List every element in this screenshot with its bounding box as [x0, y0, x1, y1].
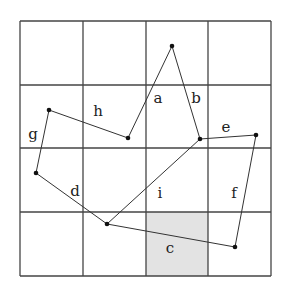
polygon-edge [235, 135, 256, 247]
grid-polygon-diagram: abcdefghi [0, 0, 287, 287]
region-label-f: f [231, 184, 238, 202]
region-label-d: d [70, 182, 80, 200]
region-label-e: e [222, 118, 231, 136]
polygon-edge [49, 110, 128, 138]
polygon-edge [107, 139, 200, 224]
vertex-dot [126, 136, 131, 141]
vertex-dot [34, 171, 39, 176]
polygon-edge [128, 46, 172, 138]
region-label-i: i [158, 184, 163, 202]
vertex-dot [170, 44, 175, 49]
vertex-dot [233, 245, 238, 250]
polygon-edge [36, 110, 49, 173]
region-label-g: g [28, 125, 38, 143]
shaded-cell-c [146, 212, 208, 276]
vertex-dot [47, 108, 52, 113]
grid-lines [20, 21, 271, 276]
region-label-h: h [93, 102, 103, 120]
vertex-dot [105, 222, 110, 227]
region-label-c: c [166, 239, 174, 257]
vertex-dot [198, 137, 203, 142]
region-label-b: b [191, 89, 201, 107]
region-label-a: a [154, 89, 163, 107]
shaded-cell [146, 212, 208, 276]
vertex-dot [254, 133, 259, 138]
